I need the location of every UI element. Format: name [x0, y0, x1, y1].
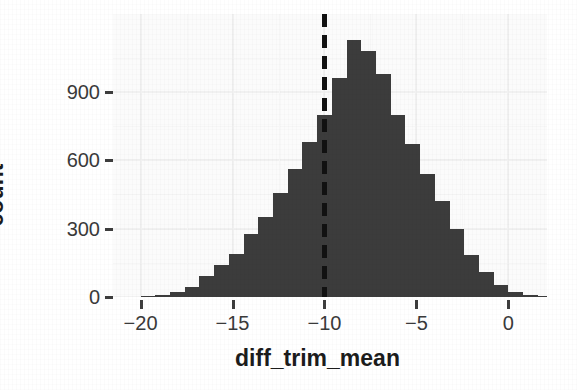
x-axis-tick-mark [507, 300, 510, 309]
x-axis-tick-mark [140, 300, 143, 309]
x-axis-tick-mark [232, 300, 235, 309]
plot-panel [113, 14, 547, 297]
y-axis-tick-label: 600 [52, 149, 100, 172]
histogram-bar [302, 142, 317, 297]
x-axis-tick-label: −5 [386, 312, 446, 335]
y-axis-title: count [0, 0, 34, 390]
histogram-figure: count diff_trim_mean 0300600900 −20−15−1… [0, 0, 577, 390]
x-axis-tick-label: −10 [294, 312, 354, 335]
y-axis-tick-mark [105, 91, 113, 94]
histogram-bar [420, 174, 435, 297]
histogram-bar [185, 287, 200, 297]
x-axis-tick-label: −15 [203, 312, 263, 335]
y-axis-tick-labels: 0300600900 [52, 0, 100, 390]
y-axis-title-text: count [0, 163, 9, 226]
y-axis-tick-mark [105, 296, 113, 299]
histogram-bar [332, 78, 347, 297]
histogram-bar [199, 276, 214, 297]
gridline-x-minor [187, 14, 188, 297]
histogram-bar [258, 217, 273, 297]
histogram-bar [170, 292, 185, 297]
histogram-bar [523, 295, 538, 297]
histogram-bar [479, 272, 494, 297]
reference-line-dashed [322, 14, 327, 297]
histogram-bar [244, 234, 259, 297]
histogram-bar [214, 265, 229, 297]
gridline-x-major [140, 14, 142, 297]
gridline-y-major [113, 91, 547, 93]
y-axis-tick-label: 900 [52, 81, 100, 104]
histogram-bar [288, 169, 303, 297]
gridline-x-major [507, 14, 509, 297]
gridline-y-minor [113, 58, 547, 59]
histogram-bar [508, 292, 523, 297]
histogram-bar [155, 295, 170, 297]
histogram-bar [391, 115, 406, 297]
x-axis-tick-mark [323, 300, 326, 309]
histogram-bar [435, 201, 450, 297]
y-axis-tick-mark [105, 159, 113, 162]
x-axis-tick-label: −20 [111, 312, 171, 335]
histogram-bar [538, 296, 547, 297]
histogram-bar [141, 296, 156, 297]
x-axis-tick-label: 0 [478, 312, 538, 335]
histogram-bar [347, 40, 362, 297]
y-axis-tick-mark [105, 228, 113, 231]
histogram-bar [229, 254, 244, 297]
histogram-bar [273, 193, 288, 297]
y-axis-tick-label: 0 [52, 286, 100, 309]
histogram-bar [376, 74, 391, 297]
histogram-bar [405, 144, 420, 297]
y-axis-tick-label: 300 [52, 218, 100, 241]
histogram-bar [464, 255, 479, 297]
histogram-bar [494, 285, 509, 297]
histogram-bar [361, 51, 376, 297]
x-axis-tick-mark [415, 300, 418, 309]
histogram-bar [450, 229, 465, 297]
